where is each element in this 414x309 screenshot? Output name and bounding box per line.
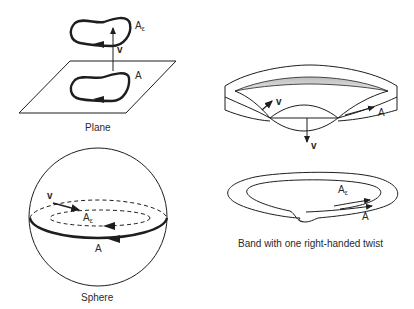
curve-a-epsilon [71, 18, 130, 46]
curve-a-epsilon [334, 200, 370, 206]
caption-band: Band with one right-handed twist [238, 238, 383, 249]
caption-sphere: Sphere [81, 292, 113, 303]
plane-figure [19, 18, 176, 113]
band-flat-figure [228, 172, 398, 222]
label-vector-v: v [117, 44, 123, 55]
label-a: A [95, 243, 102, 254]
label-a: A [135, 70, 142, 81]
plane-surface [19, 61, 176, 113]
curve-a [345, 107, 374, 115]
curve-a [30, 218, 167, 238]
label-a-top: A [378, 107, 385, 118]
sphere-outline [29, 148, 167, 286]
vector-v [53, 203, 79, 210]
vector-v-top [262, 101, 272, 110]
sphere-figure [29, 148, 167, 286]
label-vector-v: v [47, 190, 53, 201]
band-twist-figure [225, 65, 397, 142]
label-vector-v-top: v [276, 96, 282, 107]
label-a-epsilon: Aε [135, 20, 145, 32]
label-a-epsilon: Aε [338, 184, 348, 196]
label-a: A [362, 211, 369, 222]
diagram-canvas [0, 0, 414, 309]
curve-a [71, 73, 129, 101]
curve-a-epsilon [50, 210, 150, 226]
caption-plane: Plane [85, 122, 111, 133]
label-a-epsilon: Aε [83, 212, 93, 224]
label-vector-v-bottom: v [311, 140, 317, 151]
